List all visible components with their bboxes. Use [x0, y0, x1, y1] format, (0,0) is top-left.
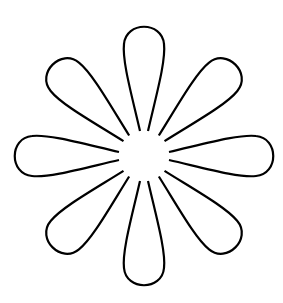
petal-left — [15, 136, 119, 177]
flower-drawing — [0, 0, 283, 303]
flower-icon — [0, 0, 283, 303]
petal-right — [169, 136, 273, 177]
petal-bottom — [124, 181, 165, 285]
petal-top — [124, 27, 165, 131]
